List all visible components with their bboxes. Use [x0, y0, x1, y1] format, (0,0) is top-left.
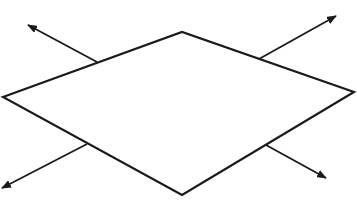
arrow-bottom-left-icon — [2, 144, 87, 188]
arrow-top-right-icon — [259, 16, 336, 59]
arrow-bottom-right-icon — [266, 145, 326, 178]
arrow-group — [2, 16, 336, 188]
rhombus-diagram — [0, 0, 357, 203]
rhombus-shape — [3, 32, 354, 195]
arrow-top-left-icon — [28, 25, 97, 62]
